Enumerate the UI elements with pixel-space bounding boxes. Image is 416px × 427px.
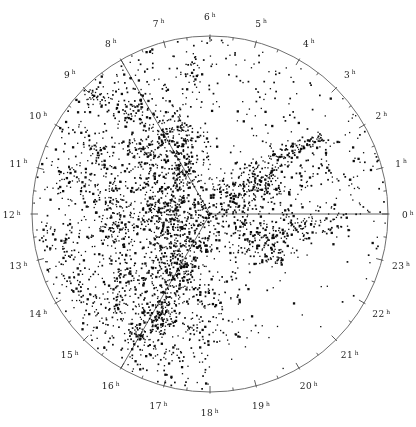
hour-label-10h: 10h bbox=[29, 110, 47, 121]
hour-label-value: 9 bbox=[64, 69, 70, 79]
hour-label-value: 8 bbox=[105, 38, 111, 48]
hour-superscript: h bbox=[383, 109, 387, 116]
hour-superscript: h bbox=[352, 68, 356, 75]
hour-label-18h: 18h bbox=[201, 407, 219, 418]
hour-superscript: h bbox=[263, 17, 267, 24]
hour-label-value: 14 bbox=[29, 309, 41, 319]
hour-label-value: 12 bbox=[3, 210, 15, 220]
hour-label-value: 18 bbox=[201, 408, 213, 418]
hour-label-13h: 13h bbox=[10, 260, 28, 271]
hour-superscript: h bbox=[403, 157, 407, 164]
hour-label-value: 7 bbox=[153, 18, 159, 28]
hour-label-23h: 23h bbox=[392, 260, 410, 271]
hour-label-11h: 11h bbox=[10, 157, 28, 168]
hour-label-3h: 3h bbox=[344, 68, 356, 79]
hour-label-value: 6 bbox=[204, 12, 210, 22]
hour-label-1h: 1h bbox=[395, 157, 407, 168]
hour-superscript: h bbox=[72, 68, 76, 75]
galaxy-sky-map-figure: 0h1h2h3h4h5h6h7h8h9h10h11h12h13h14h15h16… bbox=[0, 0, 416, 427]
hour-superscript: h bbox=[410, 208, 414, 215]
hour-superscript: h bbox=[17, 208, 21, 215]
hour-superscript: h bbox=[24, 157, 28, 164]
hour-label-value: 22 bbox=[372, 309, 384, 319]
hour-superscript: h bbox=[160, 17, 164, 24]
hour-label-8h: 8h bbox=[105, 37, 117, 48]
hour-label-value: 0 bbox=[402, 210, 408, 220]
hour-superscript: h bbox=[355, 348, 359, 355]
hour-label-value: 17 bbox=[150, 401, 162, 411]
hour-superscript: h bbox=[266, 399, 270, 406]
hour-label-22h: 22h bbox=[372, 308, 390, 319]
hour-label-value: 3 bbox=[344, 69, 350, 79]
hour-superscript: h bbox=[75, 348, 79, 355]
hour-label-value: 10 bbox=[29, 111, 41, 121]
hour-label-value: 2 bbox=[375, 111, 381, 121]
hour-label-20h: 20h bbox=[300, 380, 318, 391]
hour-label-14h: 14h bbox=[29, 308, 47, 319]
hour-label-21h: 21h bbox=[341, 349, 359, 360]
hour-superscript: h bbox=[386, 307, 390, 314]
hour-label-value: 20 bbox=[300, 381, 312, 391]
hour-superscript: h bbox=[113, 37, 117, 44]
hour-label-5h: 5h bbox=[255, 17, 267, 28]
hour-superscript: h bbox=[116, 379, 120, 386]
hour-label-value: 5 bbox=[255, 18, 261, 28]
hour-superscript: h bbox=[24, 259, 28, 266]
hour-label-12h: 12h bbox=[3, 209, 21, 220]
hour-label-value: 4 bbox=[303, 38, 309, 48]
hour-label-2h: 2h bbox=[375, 110, 387, 121]
hour-label-6h: 6h bbox=[204, 11, 216, 22]
hour-label-7h: 7h bbox=[153, 17, 165, 28]
hour-superscript: h bbox=[314, 379, 318, 386]
sky-map-canvas bbox=[0, 0, 416, 427]
hour-label-value: 1 bbox=[395, 158, 401, 168]
hour-label-value: 13 bbox=[10, 261, 22, 271]
hour-label-17h: 17h bbox=[150, 400, 168, 411]
hour-superscript: h bbox=[164, 399, 168, 406]
hour-label-19h: 19h bbox=[252, 400, 270, 411]
hour-label-16h: 16h bbox=[102, 380, 120, 391]
hour-superscript: h bbox=[43, 307, 47, 314]
hour-superscript: h bbox=[43, 109, 47, 116]
hour-label-value: 23 bbox=[392, 261, 404, 271]
hour-label-9h: 9h bbox=[64, 68, 76, 79]
hour-label-value: 16 bbox=[102, 381, 114, 391]
hour-superscript: h bbox=[311, 37, 315, 44]
hour-label-0h: 0h bbox=[402, 209, 414, 220]
hour-superscript: h bbox=[212, 10, 216, 17]
hour-superscript: h bbox=[215, 406, 219, 413]
hour-superscript: h bbox=[406, 259, 410, 266]
hour-label-value: 21 bbox=[341, 350, 353, 360]
hour-label-4h: 4h bbox=[303, 37, 315, 48]
hour-label-value: 11 bbox=[10, 158, 22, 168]
hour-label-value: 19 bbox=[252, 401, 264, 411]
hour-label-value: 15 bbox=[61, 350, 73, 360]
hour-label-15h: 15h bbox=[61, 349, 79, 360]
